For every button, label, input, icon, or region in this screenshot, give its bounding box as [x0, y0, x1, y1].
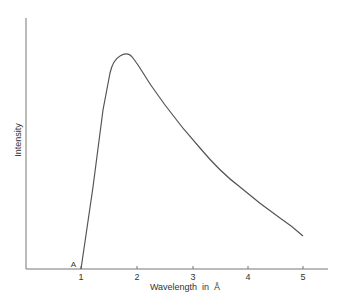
x-tick-label-3: 3	[190, 272, 195, 282]
x-tick-label-5: 5	[300, 272, 305, 282]
chart: 1 2 3 4 5 Wavelength in Å Intensity A	[0, 0, 343, 300]
x-tick-label-1: 1	[78, 272, 83, 282]
point-a-label: A	[71, 260, 77, 269]
spectrum-curve	[81, 54, 303, 269]
x-tick-label-4: 4	[245, 272, 250, 282]
x-tick-label-2: 2	[134, 272, 139, 282]
y-axis-label: Intensity	[13, 123, 23, 157]
x-axis-label: Wavelength in Å	[150, 282, 220, 292]
